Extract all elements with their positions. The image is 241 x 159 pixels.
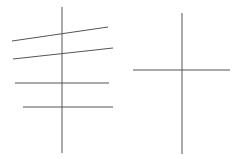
background — [0, 0, 241, 159]
diagram-canvas — [0, 0, 241, 159]
